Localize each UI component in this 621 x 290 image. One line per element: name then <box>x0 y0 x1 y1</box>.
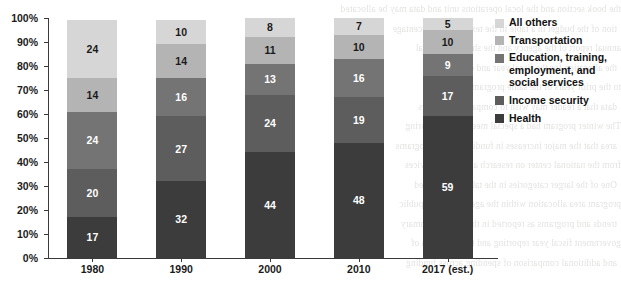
y-axis-tick-mark <box>44 258 48 259</box>
bar-segment-value-label: 16 <box>175 92 187 103</box>
bar-segment[interactable]: 24 <box>67 112 117 170</box>
legend-swatch-icon <box>495 96 504 105</box>
legend-swatch-icon <box>495 54 504 63</box>
legend-item[interactable]: Health <box>495 112 621 125</box>
bar-segment-value-label: 10 <box>442 37 454 48</box>
bar-segment[interactable]: 9 <box>423 54 473 76</box>
bar-segment[interactable]: 27 <box>156 116 206 181</box>
legend-item-label: Income security <box>509 94 589 107</box>
bar-segment-value-label: 7 <box>356 21 362 32</box>
bar-segment-value-label: 9 <box>445 60 451 71</box>
y-axis-tick-label: 10% <box>17 228 38 240</box>
bar-stack: 3227161410 <box>156 18 206 258</box>
bar-group[interactable]: 32271614101990 <box>156 18 206 258</box>
bar-segment-value-label: 10 <box>175 27 187 38</box>
bar-stack: 481916107 <box>334 18 384 258</box>
legend-item[interactable]: Transportation <box>495 34 621 47</box>
bar-segment-value-label: 24 <box>87 135 99 146</box>
legend-item-label: Education, training, employment, and soc… <box>509 51 621 89</box>
plot-area: 1720241424198032271614101990442413118200… <box>48 18 492 258</box>
bar-segment-value-label: 8 <box>267 22 273 33</box>
x-axis-tick-mark <box>92 258 93 262</box>
bar-segment[interactable]: 17 <box>67 217 117 258</box>
bar-segment-value-label: 14 <box>87 90 99 101</box>
bar-segment[interactable]: 24 <box>245 95 295 153</box>
bar-segment[interactable]: 19 <box>334 97 384 143</box>
bar-stack: 442413118 <box>245 18 295 258</box>
bar-group[interactable]: 591791052017 (est.) <box>423 18 473 258</box>
stacked-bar-chart: 0%10%20%30%40%50%60%70%80%90%100% 172024… <box>0 0 621 290</box>
bar-segment[interactable]: 32 <box>156 181 206 258</box>
bar-segment-value-label: 48 <box>353 195 365 206</box>
bar-segment[interactable]: 13 <box>245 64 295 95</box>
x-axis-tick-label: 2017 (est.) <box>422 263 473 275</box>
y-axis-tick-label: 50% <box>17 132 38 144</box>
bar-segment-value-label: 44 <box>264 200 276 211</box>
bar-stack: 1720241424 <box>67 18 117 258</box>
bar-segment-value-label: 14 <box>175 56 187 67</box>
bar-segment-value-label: 24 <box>87 44 99 55</box>
legend-swatch-icon <box>495 36 504 45</box>
legend-item-label: Health <box>509 112 541 125</box>
x-axis-tick-label: 1980 <box>81 263 104 275</box>
y-axis-tick-label: 100% <box>11 12 38 24</box>
bar-segment[interactable]: 16 <box>156 78 206 116</box>
legend-swatch-icon <box>495 19 504 28</box>
bar-stack: 59179105 <box>423 18 473 258</box>
y-axis-tick-label: 30% <box>17 180 38 192</box>
y-axis-tick-label: 20% <box>17 204 38 216</box>
bar-segment[interactable]: 5 <box>423 18 473 30</box>
bar-segment[interactable]: 17 <box>423 76 473 117</box>
y-axis: 0%10%20%30%40%50%60%70%80%90%100% <box>0 0 44 290</box>
y-axis-tick-label: 0% <box>23 252 38 264</box>
legend-swatch-icon <box>495 114 504 123</box>
bar-segment[interactable]: 44 <box>245 152 295 258</box>
x-axis-tick-label: 1990 <box>170 263 193 275</box>
bar-segment[interactable]: 10 <box>334 35 384 59</box>
bar-segment[interactable]: 10 <box>156 20 206 44</box>
bar-group[interactable]: 17202414241980 <box>67 18 117 258</box>
bar-segment-value-label: 5 <box>445 19 451 30</box>
bar-segment-value-label: 24 <box>264 118 276 129</box>
bar-segment-value-label: 13 <box>264 74 276 85</box>
bar-segment[interactable]: 11 <box>245 37 295 63</box>
bar-segment[interactable]: 14 <box>67 78 117 112</box>
legend-item[interactable]: Education, training, employment, and soc… <box>495 51 621 89</box>
legend-item[interactable]: Income security <box>495 94 621 107</box>
bar-segment[interactable]: 20 <box>67 169 117 217</box>
bar-segment[interactable]: 16 <box>334 59 384 97</box>
bar-group[interactable]: 4424131182000 <box>245 18 295 258</box>
legend-item-label: Transportation <box>509 34 583 47</box>
y-axis-tick-label: 70% <box>17 84 38 96</box>
bar-segment-value-label: 59 <box>442 182 454 193</box>
bar-segment-value-label: 32 <box>175 214 187 225</box>
bar-segment-value-label: 10 <box>353 42 365 53</box>
bar-segment[interactable]: 7 <box>334 18 384 35</box>
bar-segment[interactable]: 8 <box>245 18 295 37</box>
y-axis-tick-label: 80% <box>17 60 38 72</box>
legend-item-label: All others <box>509 16 557 29</box>
bar-segment-value-label: 19 <box>353 115 365 126</box>
y-axis-tick-label: 90% <box>17 36 38 48</box>
x-axis-tick-label: 2010 <box>347 263 370 275</box>
bar-segment[interactable]: 24 <box>67 20 117 78</box>
bar-group[interactable]: 4819161072010 <box>334 18 384 258</box>
x-axis-tick-mark <box>448 258 449 262</box>
bar-segment-value-label: 11 <box>264 45 275 56</box>
y-axis-tick-label: 60% <box>17 108 38 120</box>
bar-segment[interactable]: 48 <box>334 143 384 258</box>
bar-segment-value-label: 17 <box>442 91 454 102</box>
bar-segment[interactable]: 59 <box>423 116 473 258</box>
x-axis-tick-mark <box>181 258 182 262</box>
bar-segment-value-label: 20 <box>87 188 99 199</box>
y-axis-tick-label: 40% <box>17 156 38 168</box>
x-axis-tick-mark <box>270 258 271 262</box>
chart-legend: All othersTransportationEducation, train… <box>495 16 621 129</box>
legend-item[interactable]: All others <box>495 16 621 29</box>
bar-segment[interactable]: 14 <box>156 44 206 78</box>
bar-segment-value-label: 17 <box>87 232 99 243</box>
x-axis-line <box>48 258 498 259</box>
bar-segment[interactable]: 10 <box>423 30 473 54</box>
bar-segment-value-label: 27 <box>175 144 187 155</box>
x-axis-tick-mark <box>359 258 360 262</box>
